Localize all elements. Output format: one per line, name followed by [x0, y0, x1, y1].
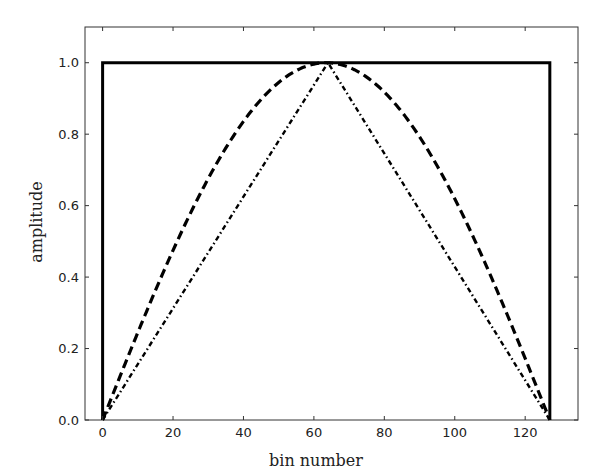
plot-frame [85, 27, 578, 420]
x-tick-label: 60 [306, 425, 323, 440]
plot-area [85, 27, 578, 420]
y-tick-label: 0.2 [58, 341, 79, 356]
y-tick-label: 0.4 [58, 270, 79, 285]
x-tick-label: 0 [98, 425, 106, 440]
x-tick-label: 120 [513, 425, 538, 440]
x-tick-label: 40 [235, 425, 252, 440]
x-tick-label: 100 [442, 425, 467, 440]
x-tick-label: 80 [376, 425, 393, 440]
y-axis-title: amplitude [27, 181, 46, 263]
chart: 020406080100120 0.00.20.40.60.81.0 bin n… [0, 0, 603, 471]
x-axis-title: bin number [269, 451, 363, 470]
x-tick-label: 20 [165, 425, 182, 440]
y-tick-label: 1.0 [58, 55, 79, 70]
y-tick-label: 0.8 [58, 127, 79, 142]
y-tick-label: 0.0 [58, 413, 79, 428]
y-tick-label: 0.6 [58, 198, 79, 213]
